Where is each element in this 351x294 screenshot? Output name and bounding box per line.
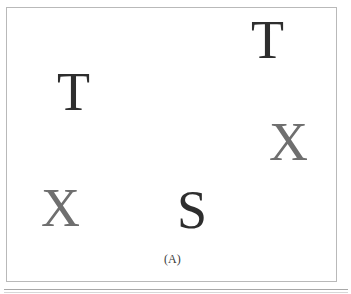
bottom-divider-rule (4, 289, 348, 290)
letter-s-bottom-center[interactable]: S (177, 183, 207, 237)
letter-x-right[interactable]: X (269, 115, 308, 169)
letter-x-bottom-left[interactable]: X (41, 181, 80, 235)
stimulus-area: TTXXS(A) (7, 8, 336, 281)
bottom-divider-rule-secondary (4, 292, 348, 293)
letter-t-top-right[interactable]: T (251, 13, 284, 67)
figure-panel: TTXXS(A) (6, 7, 337, 282)
figure-caption: (A) (164, 253, 181, 265)
figure-canvas: TTXXS(A) (0, 0, 351, 294)
letter-t-left[interactable]: T (57, 65, 90, 119)
